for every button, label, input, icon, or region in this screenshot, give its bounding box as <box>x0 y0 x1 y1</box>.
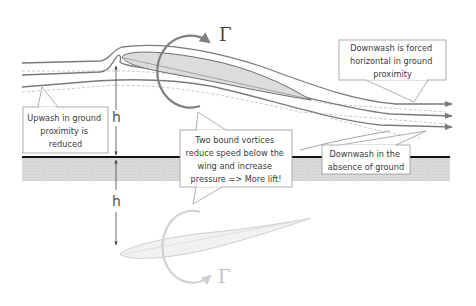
callout-vortices-pointer-bottom <box>193 187 222 204</box>
callout-downwash-absence: Downwash in the absence of ground <box>322 131 426 174</box>
callout-downwash-forced-line-3: proximity <box>373 69 412 79</box>
callout-vortices-line-1: Two bound vortices <box>194 135 274 145</box>
callout-bound-vortices: Two bound vortices reduce speed below th… <box>180 112 292 204</box>
mirror-chord-line <box>124 219 308 254</box>
gamma-label: Γ <box>219 24 232 45</box>
callout-downwash-forced-pointer <box>366 80 428 102</box>
callout-vortices-line-4: pressure => More lift! <box>191 174 282 184</box>
callout-vortices-pointer-top <box>196 112 226 130</box>
callout-upwash-line-2: proximity is <box>40 126 88 136</box>
callout-upwash-line-1: Upwash in ground <box>27 113 101 123</box>
callout-upwash-line-3: reduced <box>49 139 82 149</box>
callout-vortices-line-2: reduce speed below the <box>186 148 284 158</box>
height-indicator: h h <box>112 66 121 245</box>
mirror-gamma-label: Γ <box>218 266 231 287</box>
mirror-wing-group: Γ <box>120 211 311 287</box>
callout-downwash-forced-line-2: horizontal in ground <box>350 56 432 66</box>
callout-vortices-line-3: wing and increase <box>197 161 271 171</box>
callout-upwash: Upwash in ground proximity is reduced <box>23 87 108 153</box>
callout-downwash-forced-line-1: Downwash is forced <box>350 43 432 53</box>
callout-downwash-forced: Downwash is forced horizontal in ground … <box>339 40 446 102</box>
ground-effect-diagram: Γ Γ h h Upwash in gro <box>0 0 476 306</box>
wing-group <box>122 52 311 100</box>
mirror-height-label: h <box>112 193 121 209</box>
callout-downwash-absence-line-2: absence of ground <box>328 162 404 172</box>
callout-downwash-absence-line-1: Downwash in the <box>329 149 399 159</box>
height-label: h <box>112 109 121 125</box>
